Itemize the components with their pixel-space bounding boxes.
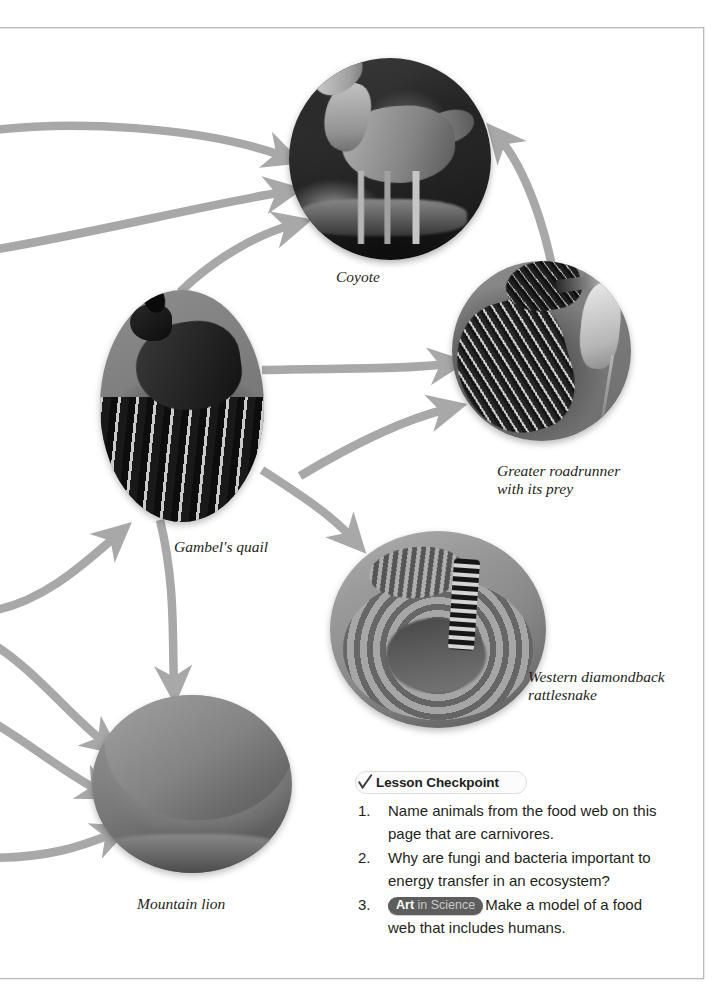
- lesson-checkpoint-header: Lesson Checkpoint: [358, 772, 658, 792]
- caption-quail: Gambel's quail: [174, 538, 268, 556]
- list-item-number: 2.: [358, 846, 380, 869]
- lesson-checkpoint-question-list: 1. Name animals from the food web on thi…: [358, 799, 658, 939]
- rattlesnake-photo: [330, 531, 546, 728]
- lesson-checkpoint-title: Lesson Checkpoint: [376, 775, 499, 790]
- list-item-text: Why are fungi and bacteria important to …: [388, 849, 651, 889]
- art-in-science-badge: Art in Science: [388, 897, 483, 915]
- quail-photo: [100, 290, 264, 522]
- list-item-number: 1.: [358, 799, 380, 822]
- caption-mountain-lion: Mountain lion: [137, 895, 225, 913]
- art-in-science-badge-rest: in Science: [418, 898, 476, 912]
- list-item-number: 3.: [358, 893, 380, 916]
- lesson-checkpoint: Lesson Checkpoint 1. Name animals from t…: [358, 772, 658, 940]
- quail-cactus-shape: [100, 397, 264, 522]
- list-item: 3. Art in ScienceMake a model of a food …: [358, 893, 658, 939]
- coyote-legs-shape: [350, 171, 439, 244]
- check-mark-icon: [358, 774, 373, 791]
- art-in-science-badge-bold: Art: [396, 898, 414, 912]
- mountain-lion-rock-shape: [92, 834, 292, 873]
- list-item-text: Name animals from the food web on this p…: [388, 802, 656, 842]
- caption-coyote: Coyote: [336, 268, 380, 286]
- roadrunner-prey-shape: [576, 281, 624, 371]
- caption-roadrunner: Greater roadrunner with its prey: [497, 462, 620, 498]
- mountain-lion-photo: [92, 695, 292, 873]
- caption-rattlesnake: Western diamondback rattlesnake: [528, 668, 665, 704]
- roadrunner-photo: [452, 261, 631, 441]
- mountain-lion-body-shape: [98, 695, 292, 826]
- list-item: 1. Name animals from the food web on thi…: [358, 799, 658, 845]
- coyote-photo: [289, 58, 491, 260]
- textbook-page: Coyote Greater roadrunner with its prey …: [0, 0, 715, 986]
- list-item: 2. Why are fungi and bacteria important …: [358, 846, 658, 892]
